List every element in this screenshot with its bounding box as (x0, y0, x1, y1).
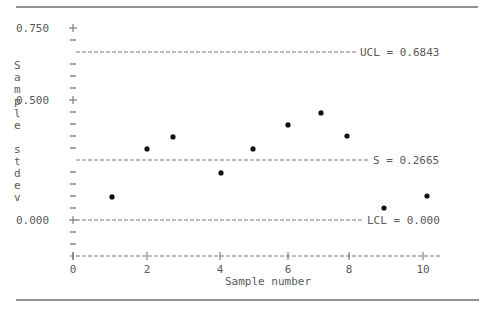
data-point (250, 146, 255, 151)
control-chart: Samplestdev 0.750 0.500 0.000 UCL = 0.68… (0, 0, 491, 310)
data-point (170, 134, 175, 139)
y-tick-0000: 0.000 (16, 214, 49, 227)
x-tick-label: 8 (346, 263, 353, 276)
data-point (318, 110, 323, 115)
y-axis-title-char: v (14, 191, 21, 204)
data-point (344, 133, 349, 138)
s-label: S = 0.2665 (373, 154, 439, 167)
data-point (218, 170, 223, 175)
data-point (144, 146, 149, 151)
data-point (424, 193, 429, 198)
y-axis-ticks (69, 24, 77, 260)
y-axis-title: Samplestdev (14, 59, 21, 204)
y-axis-title-char: e (14, 119, 21, 132)
lcl-label: LCL = 0.000 (367, 214, 440, 227)
data-point (285, 122, 290, 127)
y-tick-0750: 0.750 (16, 22, 49, 35)
data-point (109, 194, 114, 199)
y-tick-0500: 0.500 (16, 94, 49, 107)
x-axis-ticks: 0246810 (70, 252, 430, 276)
x-tick-label: 2 (144, 263, 151, 276)
data-point (381, 205, 386, 210)
x-tick-label: 10 (416, 263, 429, 276)
x-axis-title: Sample number (225, 275, 311, 288)
x-tick-label: 4 (217, 263, 224, 276)
ucl-label: UCL = 0.6843 (360, 46, 439, 59)
x-tick-label: 0 (70, 263, 77, 276)
